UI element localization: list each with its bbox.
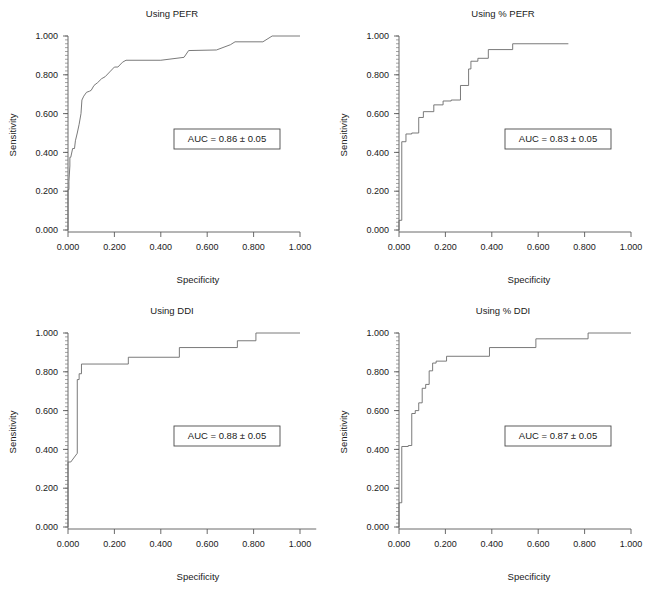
x-tick-label: 0.800 [242, 539, 265, 549]
auc-label: AUC = 0.88 ± 0.05 [188, 430, 266, 441]
panel-ddi: Using DDI 0.0000.2000.4000.6000.8001.000… [0, 297, 331, 593]
x-axis-title: Specificity [177, 274, 220, 285]
x-tick-label: 0.200 [103, 242, 126, 252]
y-tick-label: 0.400 [35, 445, 58, 455]
auc-annotation: AUC = 0.87 ± 0.05 [505, 426, 611, 446]
y-tick-label: 0.800 [35, 367, 58, 377]
x-tick-label: 0.200 [103, 539, 126, 549]
y-tick-label: 0.600 [366, 406, 389, 416]
x-tick-label: 0.400 [150, 539, 173, 549]
y-tick-label: 0.800 [366, 70, 389, 80]
x-tick-label: 0.400 [481, 539, 504, 549]
auc-label: AUC = 0.87 ± 0.05 [519, 430, 597, 441]
y-axis-title: Sensitivity [7, 113, 18, 156]
x-tick-label: 1.000 [620, 539, 643, 549]
panel-pefr-svg: Using PEFR 0.0000.2000.4000.6000.8001.00… [0, 0, 331, 296]
x-tick-label: 0.000 [388, 242, 411, 252]
panel-pct-ddi-svg: Using % DDI 0.0000.2000.4000.6000.8001.0… [331, 297, 662, 593]
y-tick-label: 0.000 [366, 225, 389, 235]
x-tick-label: 0.600 [196, 242, 219, 252]
x-tick-label: 0.000 [57, 242, 80, 252]
y-tick-label: 0.600 [35, 406, 58, 416]
x-tick-label: 1.000 [289, 539, 312, 549]
y-axis-title: Sensitivity [338, 410, 349, 453]
panel-title: Using PEFR [146, 8, 198, 19]
x-tick-label: 0.600 [527, 539, 550, 549]
y-tick-label: 1.000 [366, 328, 389, 338]
x-tick-label: 0.400 [481, 242, 504, 252]
roc-figure: Using PEFR 0.0000.2000.4000.6000.8001.00… [0, 0, 662, 593]
auc-label: AUC = 0.86 ± 0.05 [188, 133, 266, 144]
x-tick-label: 1.000 [289, 242, 312, 252]
y-tick-label: 1.000 [35, 328, 58, 338]
y-tick-label: 0.600 [366, 109, 389, 119]
y-tick-label: 0.800 [35, 70, 58, 80]
x-tick-label: 0.600 [196, 539, 219, 549]
y-tick-label: 0.000 [35, 225, 58, 235]
x-axis-title: Specificity [508, 571, 551, 582]
y-tick-label: 0.200 [35, 483, 58, 493]
x-axis-title: Specificity [508, 274, 551, 285]
y-tick-label: 0.000 [35, 522, 58, 532]
x-axis-title: Specificity [177, 571, 220, 582]
y-tick-label: 0.200 [366, 186, 389, 196]
y-tick-label: 1.000 [366, 31, 389, 41]
x-tick-label: 0.200 [434, 242, 457, 252]
panel-title: Using DDI [150, 305, 193, 316]
y-axis-title: Sensitivity [7, 410, 18, 453]
x-axis: 0.0000.2000.4000.6000.8001.000 [57, 529, 317, 549]
y-axis: 0.0000.2000.4000.6000.8001.000 [366, 328, 399, 532]
x-tick-label: 0.800 [242, 242, 265, 252]
x-tick-label: 0.000 [388, 539, 411, 549]
y-tick-label: 0.000 [366, 522, 389, 532]
y-tick-label: 0.400 [366, 445, 389, 455]
panel-title: Using % PEFR [471, 8, 534, 19]
y-tick-label: 1.000 [35, 31, 58, 41]
y-tick-label: 0.400 [366, 148, 389, 158]
panel-pefr: Using PEFR 0.0000.2000.4000.6000.8001.00… [0, 0, 331, 296]
y-axis: 0.0000.2000.4000.6000.8001.000 [366, 31, 399, 235]
auc-annotation: AUC = 0.86 ± 0.05 [174, 129, 280, 149]
x-tick-label: 0.400 [150, 242, 173, 252]
panel-pct-ddi: Using % DDI 0.0000.2000.4000.6000.8001.0… [331, 297, 662, 593]
x-tick-label: 0.200 [434, 539, 457, 549]
y-axis: 0.0000.2000.4000.6000.8001.000 [35, 31, 68, 235]
panel-title: Using % DDI [476, 305, 530, 316]
x-axis: 0.0000.2000.4000.6000.8001.000 [57, 232, 312, 252]
y-tick-label: 0.200 [35, 186, 58, 196]
panel-pct-pefr: Using % PEFR 0.0000.2000.4000.6000.8001.… [331, 0, 662, 296]
x-tick-label: 0.000 [57, 539, 80, 549]
auc-label: AUC = 0.83 ± 0.05 [519, 133, 597, 144]
panel-ddi-svg: Using DDI 0.0000.2000.4000.6000.8001.000… [0, 297, 331, 593]
y-tick-label: 0.800 [366, 367, 389, 377]
x-axis: 0.0000.2000.4000.6000.8001.000 [388, 232, 643, 252]
x-tick-label: 0.600 [527, 242, 550, 252]
auc-annotation: AUC = 0.88 ± 0.05 [174, 426, 280, 446]
y-tick-label: 0.400 [35, 148, 58, 158]
panel-pct-pefr-svg: Using % PEFR 0.0000.2000.4000.6000.8001.… [331, 0, 662, 296]
x-tick-label: 0.800 [573, 242, 596, 252]
auc-annotation: AUC = 0.83 ± 0.05 [505, 129, 611, 149]
x-tick-label: 1.000 [620, 242, 643, 252]
x-tick-label: 0.800 [573, 539, 596, 549]
x-axis: 0.0000.2000.4000.6000.8001.000 [388, 529, 643, 549]
y-tick-label: 0.200 [366, 483, 389, 493]
y-axis: 0.0000.2000.4000.6000.8001.000 [35, 328, 68, 532]
y-axis-title: Sensitivity [338, 113, 349, 156]
y-tick-label: 0.600 [35, 109, 58, 119]
